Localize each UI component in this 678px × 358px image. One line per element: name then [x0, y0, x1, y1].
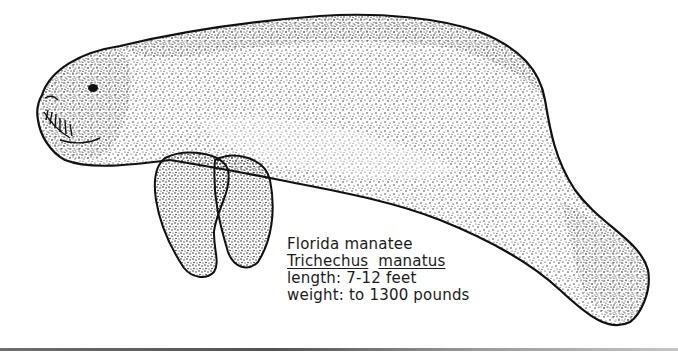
- eye: [88, 84, 98, 92]
- weight-row: weight: to 1300 pounds: [287, 287, 470, 304]
- manatee-illustration: Florida manatee Trichechusmanatus length…: [0, 0, 678, 358]
- scientific-name: Trichechusmanatus: [287, 253, 470, 270]
- manatee-drawing: [0, 0, 678, 358]
- length-label: length:: [287, 269, 341, 287]
- common-name: Florida manatee: [287, 236, 470, 253]
- species: manatus: [378, 252, 445, 270]
- genus: Trichechus: [287, 252, 368, 270]
- bottom-divider: [0, 348, 678, 351]
- length-value: 7-12 feet: [346, 269, 416, 287]
- length-row: length: 7-12 feet: [287, 270, 470, 287]
- weight-label: weight:: [287, 286, 344, 304]
- weight-value: to 1300 pounds: [349, 286, 470, 304]
- species-caption: Florida manatee Trichechusmanatus length…: [287, 236, 470, 304]
- front-flipper: [155, 153, 229, 277]
